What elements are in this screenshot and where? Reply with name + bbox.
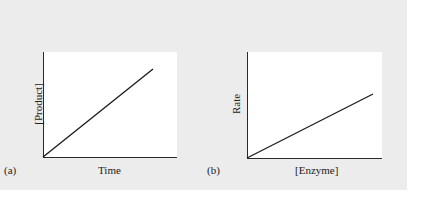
line-product-vs-time [43, 69, 153, 157]
data-lines [0, 0, 423, 198]
line-rate-vs-enzyme [247, 94, 373, 158]
